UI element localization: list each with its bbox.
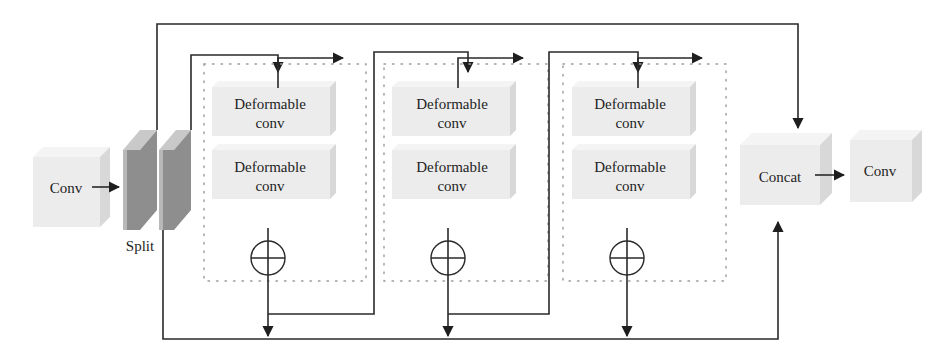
svg-text:conv: conv	[615, 115, 645, 131]
deformable-conv-3b: Deformable conv	[572, 144, 696, 199]
svg-text:Deformable: Deformable	[234, 159, 306, 175]
concat-block: Concat	[740, 133, 832, 205]
deformable-conv-2a: Deformable conv	[392, 81, 516, 136]
concat-label: Concat	[759, 169, 802, 185]
output-conv-block: Conv	[850, 130, 922, 202]
svg-text:conv: conv	[255, 115, 285, 131]
svg-text:conv: conv	[615, 178, 645, 194]
deformable-conv-1b: Deformable conv	[212, 144, 336, 199]
svg-text:Deformable: Deformable	[416, 96, 488, 112]
svg-text:Deformable: Deformable	[594, 159, 666, 175]
svg-text:Deformable: Deformable	[416, 159, 488, 175]
residual-block-3: Deformable conv Deformable conv	[563, 58, 726, 336]
split-plates	[123, 130, 191, 230]
svg-text:conv: conv	[255, 178, 285, 194]
svg-text:Deformable: Deformable	[594, 96, 666, 112]
bottom-bus-wire	[163, 222, 778, 339]
svg-text:conv: conv	[437, 178, 467, 194]
input-conv-label: Conv	[50, 180, 83, 196]
deformable-conv-3a: Deformable conv	[572, 81, 696, 136]
deformable-conv-2b: Deformable conv	[392, 144, 516, 199]
output-conv-label: Conv	[864, 163, 897, 179]
csp-deformable-diagram: Conv Split Deformable conv Deformable co…	[0, 0, 945, 362]
deformable-conv-1a: Deformable conv	[212, 81, 336, 136]
svg-text:conv: conv	[437, 115, 467, 131]
circle-plus-icon	[610, 228, 644, 336]
split-label: Split	[126, 238, 155, 254]
svg-text:Deformable: Deformable	[234, 96, 306, 112]
circle-plus-icon	[431, 228, 465, 336]
circle-plus-icon	[251, 228, 285, 336]
